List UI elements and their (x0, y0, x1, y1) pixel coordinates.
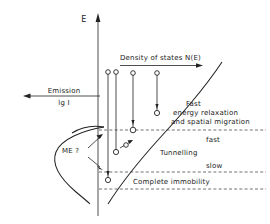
track-3-end-circle (130, 127, 136, 133)
complete-immobility-label: Complete immobility (133, 178, 210, 186)
dos-arrow-icon (120, 63, 203, 67)
track-3-start-circle (131, 71, 136, 76)
relaxation-track-2 (113, 70, 133, 155)
tunnelling-label: Tunnelling (159, 149, 198, 157)
emission-spectrum-curve (55, 127, 104, 204)
track-1-start-circle (106, 70, 111, 75)
track-2-start-circle (114, 70, 119, 75)
axis-arrowhead-icon (96, 13, 101, 22)
track-2-end-circle (113, 149, 118, 154)
emission-label: Emission (48, 87, 81, 95)
tunnelling-slow-label: slow (206, 162, 222, 170)
track-1-end-circle (105, 177, 110, 182)
energy-axis-label: E (81, 15, 86, 24)
emission-arrowhead-icon (23, 94, 31, 99)
relaxation-track-3 (130, 71, 136, 133)
track-3-arrowhead-icon (131, 120, 134, 125)
track-2-tunnel-circle (124, 143, 129, 148)
track-1-arrowhead-icon (106, 171, 109, 176)
fast-relaxation-line2: energy relaxation (173, 109, 238, 117)
me-arrow-upper-icon (88, 134, 103, 148)
fast-relaxation-line3: and spatial migration (171, 118, 250, 126)
relaxation-track-1 (105, 70, 110, 183)
tunnelling-fast-label: fast (206, 136, 220, 144)
track-4-start-circle (155, 71, 160, 76)
me-question-label: ME ? (62, 147, 79, 155)
vertical-energy-axis (96, 13, 101, 216)
track-4-arrowhead-icon (155, 104, 158, 109)
energy-relaxation-diagram: E Density of states N(E) Emission lg I (0, 0, 270, 224)
fast-relaxation-line1: Fast (186, 100, 201, 108)
me-arrow-lower-icon (88, 157, 103, 170)
relaxation-track-4 (154, 71, 159, 116)
track-4-end-circle (154, 110, 159, 115)
dos-label: Density of states N(E) (120, 54, 201, 62)
lg-i-label: lg I (58, 99, 69, 107)
